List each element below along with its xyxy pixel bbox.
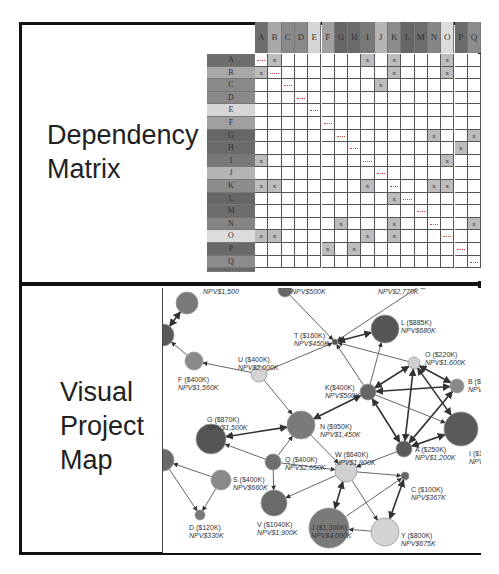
column-header: K xyxy=(388,22,401,53)
matrix-cell xyxy=(268,167,281,180)
node-npv: NPV$500K xyxy=(325,392,360,400)
project-node[interactable] xyxy=(287,411,315,439)
matrix-cell xyxy=(348,104,361,117)
dependency-edge xyxy=(419,366,451,383)
matrix-cell xyxy=(428,104,441,117)
project-node[interactable] xyxy=(444,412,478,446)
matrix-cell xyxy=(308,117,321,130)
label-line: Project xyxy=(60,409,144,443)
project-node[interactable] xyxy=(211,470,231,490)
matrix-cell xyxy=(388,256,401,269)
project-node[interactable] xyxy=(371,518,399,546)
matrix-cell xyxy=(255,167,268,180)
matrix-cell xyxy=(401,230,414,243)
column-header: C xyxy=(282,22,295,53)
matrix-cell: x xyxy=(361,54,374,67)
column-header: Q xyxy=(468,22,481,53)
project-node[interactable] xyxy=(371,315,399,343)
matrix-cell xyxy=(308,243,321,256)
matrix-cell: x xyxy=(455,142,468,155)
matrix-cell xyxy=(441,167,454,180)
row-header: G xyxy=(207,130,255,143)
project-node[interactable] xyxy=(396,441,412,457)
matrix-cell xyxy=(428,54,441,67)
matrix-cell xyxy=(308,104,321,117)
matrix-cell xyxy=(322,92,335,105)
matrix-cell xyxy=(322,79,335,92)
project-node[interactable] xyxy=(261,490,287,516)
matrix-cell xyxy=(295,230,308,243)
matrix-cell xyxy=(335,54,348,67)
matrix-cell xyxy=(468,205,481,218)
matrix-cell xyxy=(401,130,414,143)
matrix-cell xyxy=(322,218,335,231)
matrix-cell xyxy=(468,155,481,168)
matrix-cell: x xyxy=(388,218,401,231)
project-node[interactable] xyxy=(408,357,420,369)
matrix-cell: x xyxy=(468,218,481,231)
matrix-cell xyxy=(282,142,295,155)
matrix-cell xyxy=(361,167,374,180)
project-node[interactable] xyxy=(418,288,428,289)
node-npv: NPV$4,000K xyxy=(311,532,351,540)
matrix-cell xyxy=(322,205,335,218)
dependency-edge xyxy=(171,342,187,355)
project-node[interactable] xyxy=(265,454,281,470)
column-header: I xyxy=(361,22,374,53)
matrix-cell xyxy=(295,142,308,155)
matrix-cell xyxy=(415,243,428,256)
matrix-cell xyxy=(375,155,388,168)
matrix-cell xyxy=(441,205,454,218)
matrix-cell xyxy=(468,167,481,180)
dependency-edge xyxy=(264,380,292,414)
matrix-cell xyxy=(322,130,335,143)
matrix-cell xyxy=(308,218,321,231)
row-header: I xyxy=(207,155,255,168)
project-node[interactable] xyxy=(401,472,409,480)
dependency-edge xyxy=(417,368,451,415)
matrix-cell xyxy=(361,79,374,92)
matrix-cell xyxy=(415,130,428,143)
matrix-cell xyxy=(455,79,468,92)
column-header: N xyxy=(428,22,441,53)
matrix-cell xyxy=(268,79,281,92)
matrix-cell xyxy=(455,218,468,231)
matrix-cell xyxy=(361,218,374,231)
column-header: A xyxy=(255,22,268,53)
matrix-cell xyxy=(348,142,361,155)
column-header: H xyxy=(348,22,361,53)
matrix-cell xyxy=(348,67,361,80)
matrix-cell xyxy=(348,79,361,92)
dependency-edge xyxy=(203,489,216,511)
matrix-cell xyxy=(361,130,374,143)
matrix-cell xyxy=(255,104,268,117)
matrix-cell xyxy=(335,92,348,105)
project-node[interactable] xyxy=(185,352,203,370)
matrix-cell xyxy=(268,92,281,105)
matrix-cell: x xyxy=(335,218,348,231)
matrix-cell xyxy=(348,117,361,130)
project-node[interactable] xyxy=(176,292,198,314)
matrix-cell xyxy=(415,104,428,117)
matrix-cell xyxy=(282,155,295,168)
matrix-cell: x xyxy=(322,243,335,256)
matrix-cell xyxy=(428,218,441,231)
matrix-cell xyxy=(335,155,348,168)
node-label: K($400K)NPV$500K xyxy=(325,384,360,400)
matrix-cell xyxy=(375,92,388,105)
matrix-cell xyxy=(428,243,441,256)
matrix-cell xyxy=(415,205,428,218)
matrix-cell xyxy=(388,155,401,168)
matrix-cell xyxy=(428,167,441,180)
project-node[interactable] xyxy=(450,379,464,393)
project-node[interactable] xyxy=(332,339,338,345)
project-node[interactable] xyxy=(195,510,205,520)
matrix-cell xyxy=(415,218,428,231)
matrix-cell xyxy=(428,256,441,269)
project-node[interactable] xyxy=(163,449,174,471)
matrix-cell xyxy=(322,193,335,206)
row-header: D xyxy=(207,92,255,105)
project-node[interactable] xyxy=(360,384,376,400)
matrix-cell xyxy=(375,167,388,180)
matrix-cell xyxy=(428,193,441,206)
